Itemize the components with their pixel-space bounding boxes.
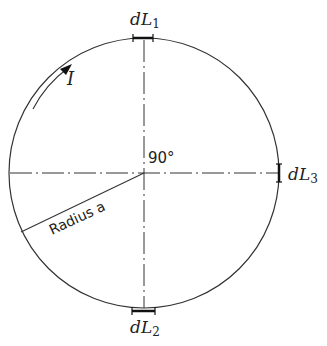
current-label: I bbox=[66, 68, 75, 89]
current-loop-diagram: dL1 dL2 dL3 I 90° Radius a bbox=[0, 0, 327, 346]
angle-label: 90° bbox=[148, 149, 175, 167]
dL1-element bbox=[133, 34, 153, 42]
dL3-label: dL3 bbox=[288, 164, 318, 186]
radius-label: Radius a bbox=[47, 198, 108, 238]
dL1-label: dL1 bbox=[130, 9, 160, 31]
dL2-label: dL2 bbox=[130, 317, 160, 339]
